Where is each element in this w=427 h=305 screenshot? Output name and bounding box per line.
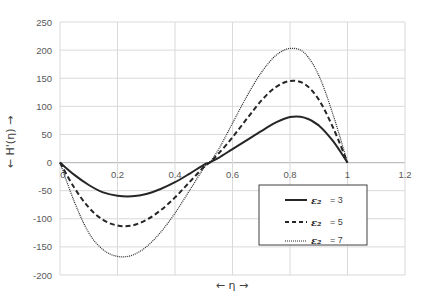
legend-symbol: ε₂: [311, 235, 322, 246]
y-tick-label: -100: [33, 213, 52, 224]
x-tick-label: 0.6: [226, 169, 239, 180]
series-line-solid: [60, 116, 348, 196]
legend-value: = 3: [330, 195, 343, 205]
legend-symbol: ε₂: [311, 217, 322, 228]
y-axis-title: ← H'(η) →: [4, 116, 17, 168]
y-tick-label: 150: [36, 73, 52, 84]
y-tick-label: 100: [36, 101, 52, 112]
x-tick-label: 0.2: [111, 169, 124, 180]
y-tick-label: -50: [38, 185, 52, 196]
y-tick-label: 200: [36, 45, 52, 56]
y-tick-label: 250: [36, 17, 52, 28]
y-tick-label: -150: [33, 241, 52, 252]
legend: ε₂ = 3 ε₂ = 5 ε₂ = 7: [259, 185, 367, 246]
line-chart: 250200150100500-50-100-150-20000.20.40.6…: [0, 0, 427, 305]
x-tick-label: 0.4: [168, 169, 181, 180]
legend-value: = 7: [330, 235, 343, 245]
y-tick-label: 0: [47, 157, 52, 168]
x-axis-title: ← η →: [216, 279, 248, 292]
legend-symbol: ε₂: [311, 195, 322, 206]
legend-value: = 5: [330, 217, 343, 227]
x-tick-label: 1.2: [398, 169, 411, 180]
y-tick-label: -200: [33, 270, 52, 281]
y-tick-label: 50: [41, 129, 52, 140]
x-tick-label: 0.8: [283, 169, 296, 180]
x-tick-label: 1: [345, 169, 350, 180]
